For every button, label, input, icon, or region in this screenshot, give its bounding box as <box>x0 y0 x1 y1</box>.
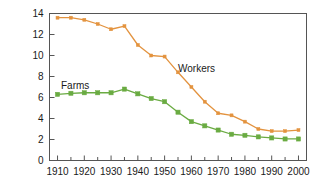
data-point-marker <box>297 129 300 132</box>
data-point-marker <box>150 54 153 57</box>
x-tick-label: 1990 <box>261 166 284 177</box>
data-point-marker <box>217 112 220 115</box>
y-tick-label: 10 <box>32 50 44 61</box>
data-point-marker <box>229 132 233 136</box>
data-point-marker <box>176 110 180 114</box>
y-tick-label: 6 <box>38 92 44 103</box>
x-tick-label: 1950 <box>153 166 176 177</box>
data-point-marker <box>216 128 220 132</box>
x-tick-label: 1940 <box>127 166 150 177</box>
data-point-marker <box>243 120 246 123</box>
data-point-marker <box>82 91 86 95</box>
data-point-marker <box>69 91 73 95</box>
data-point-marker <box>69 16 72 19</box>
data-point-marker <box>256 135 260 139</box>
y-tick-label: 0 <box>38 155 44 166</box>
data-point-marker <box>163 100 167 104</box>
data-point-marker <box>110 28 113 31</box>
x-tick-label: 2000 <box>287 166 310 177</box>
data-point-marker <box>96 23 99 26</box>
data-point-marker <box>56 16 59 19</box>
y-tick-label: 4 <box>38 113 44 124</box>
data-point-marker <box>96 91 100 95</box>
data-point-marker <box>270 130 273 133</box>
data-point-marker <box>296 137 300 141</box>
data-point-marker <box>136 44 139 47</box>
data-point-marker <box>136 92 140 96</box>
y-tick-label: 2 <box>38 134 44 145</box>
data-point-marker <box>203 124 207 128</box>
x-tick-label: 1910 <box>46 166 69 177</box>
data-point-marker <box>257 128 260 131</box>
data-point-marker <box>203 100 206 103</box>
y-tick-label: 12 <box>32 29 44 40</box>
y-tick-label: 8 <box>38 71 44 82</box>
data-point-marker <box>243 133 247 137</box>
data-point-marker <box>122 87 126 91</box>
x-tick-label: 1960 <box>180 166 203 177</box>
data-point-marker <box>230 114 233 117</box>
data-point-marker <box>163 55 166 58</box>
data-point-marker <box>283 137 287 141</box>
workers-series-label: Workers <box>178 63 215 74</box>
chart-figure: Millions 02468101214 1910192019301940195… <box>0 0 317 195</box>
data-point-marker <box>189 120 193 124</box>
data-point-marker <box>190 86 193 89</box>
data-point-marker <box>123 25 126 28</box>
x-tick-label: 1920 <box>73 166 96 177</box>
data-point-marker <box>270 136 274 140</box>
farms-series-label: Farms <box>61 80 89 91</box>
data-point-marker <box>83 18 86 21</box>
line-chart-plot: 02468101214 1910192019301940195019601970… <box>0 0 317 195</box>
data-point-marker <box>109 91 113 95</box>
x-tick-label: 1970 <box>207 166 230 177</box>
y-tick-label: 14 <box>32 8 44 19</box>
x-tick-label: 1930 <box>100 166 123 177</box>
data-point-marker <box>149 96 153 100</box>
data-point-marker <box>284 130 287 133</box>
data-point-marker <box>55 92 59 96</box>
x-tick-label: 1980 <box>234 166 257 177</box>
